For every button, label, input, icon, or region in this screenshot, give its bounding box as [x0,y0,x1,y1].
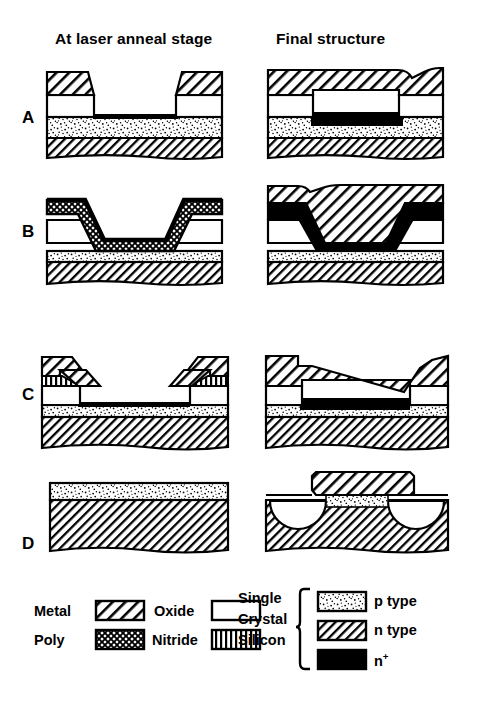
row-label-b: B [22,222,34,242]
region-n-plus [311,112,403,126]
region-n-type [42,417,228,450]
region-p-type [47,251,222,262]
row-label-d: D [22,534,34,554]
region-oxide-left [47,95,94,117]
swatch-n-plus [318,650,366,669]
column-header-right: Final structure [276,30,385,48]
region-metal-left [47,72,94,95]
region-n-type [50,500,228,553]
region-oxide-left [42,385,80,405]
region-oxide-left [266,386,302,405]
region-n-type [266,417,448,450]
region-n-type [268,262,443,285]
legend-label-poly: Poly [34,632,65,648]
swatch-metal [96,601,144,620]
legend-label-n-plus: n+ [374,651,389,669]
region-n-plus [78,402,190,407]
row-label-a: A [22,108,34,128]
swatch-n-type [318,621,366,640]
row-label-c: C [22,385,34,405]
legend-swatches [96,592,366,669]
region-oxide-right [190,385,228,405]
region-metal-stripe [312,472,414,495]
row-C-left-diagram [42,357,228,450]
region-oxide-left [268,95,313,117]
legend-label-n-type: n type [374,622,417,638]
region-p-type [47,117,222,138]
region-n-type [47,138,222,159]
legend-label-oxide: Oxide [154,603,194,619]
legend-group-line-1: Single [238,590,282,606]
legend-label-metal: Metal [34,603,71,619]
region-p-type [268,251,443,262]
region-p-type [50,483,228,500]
row-B-left-diagram [47,200,222,285]
row-C-right-diagram [266,356,448,450]
region-n-type [47,262,222,285]
row-A-right-diagram [268,68,443,159]
region-metal-layer [266,356,448,392]
legend-label-n-plus-base: n [374,653,383,669]
row-B-right-diagram [268,185,443,285]
row-D-left-diagram [50,483,228,553]
region-metal-right [176,72,222,95]
row-A-left-diagram [47,72,222,159]
swatch-p-type [318,592,366,611]
column-header-left: At laser anneal stage [55,30,212,48]
region-metal-layer [268,68,443,95]
swatch-poly [96,630,144,649]
region-oxide-right [410,386,448,405]
region-n-plus [93,114,178,119]
legend-group-line-2: Crystal [238,611,287,627]
legend-label-nitride: Nitride [152,632,198,648]
region-oxide-right [176,95,222,117]
region-n-type [268,138,443,159]
region-p-type [326,495,388,507]
silicon-group-brace [296,589,310,669]
region-n-plus [300,398,410,410]
region-oxide-right [399,95,443,117]
legend-label-p-type: p type [374,593,417,609]
legend-label-n-plus-superscript: + [383,651,389,662]
row-D-right-diagram [266,472,448,553]
legend-group-line-3: Silicon [238,632,286,648]
